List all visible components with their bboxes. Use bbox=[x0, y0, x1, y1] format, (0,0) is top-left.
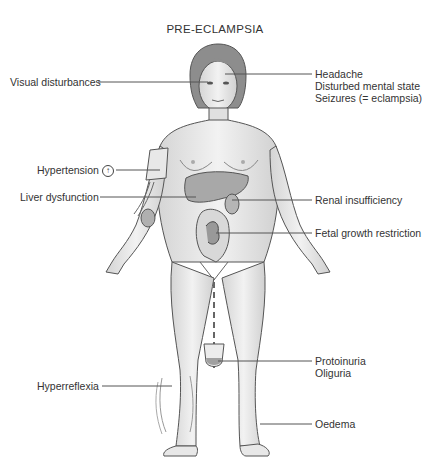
label-proteinuria: Protoinuria bbox=[315, 355, 366, 367]
kidney bbox=[225, 194, 239, 214]
label-oedema: Oedema bbox=[315, 418, 355, 430]
label-text: Oedema bbox=[315, 418, 355, 430]
label-text: Fetal growth restriction bbox=[315, 227, 421, 239]
label-hyperreflexia: Hyperreflexia bbox=[37, 380, 99, 392]
label-fetal-growth-restriction: Fetal growth restriction bbox=[315, 227, 421, 239]
label-headache: Headache bbox=[315, 68, 422, 80]
left-leg bbox=[222, 262, 265, 446]
label-text: Visual disturbances bbox=[10, 76, 101, 88]
up-arrow-circle-icon: ↑ bbox=[102, 165, 114, 177]
face bbox=[199, 61, 237, 111]
label-text: Liver dysfunction bbox=[20, 191, 99, 203]
label-cns-symptoms: Headache Disturbed mental state Seizures… bbox=[315, 68, 422, 104]
label-oliguria: Oliguria bbox=[315, 367, 366, 379]
left-arm bbox=[270, 146, 330, 274]
label-urine-findings: Protoinuria Oliguria bbox=[315, 355, 366, 379]
label-text: Renal insufficiency bbox=[315, 194, 402, 206]
label-text: Hypertension bbox=[37, 164, 99, 176]
swollen-foot bbox=[240, 444, 269, 456]
label-visual-disturbances: Visual disturbances bbox=[10, 76, 101, 88]
bp-cuff bbox=[146, 148, 168, 180]
label-hypertension: Hypertension↑ bbox=[37, 164, 114, 177]
label-renal-insufficiency: Renal insufficiency bbox=[315, 194, 402, 206]
label-liver-dysfunction: Liver dysfunction bbox=[20, 191, 99, 203]
label-disturbed-mental-state: Disturbed mental state bbox=[315, 80, 422, 92]
label-seizures: Seizures (= eclampsia) bbox=[315, 92, 422, 104]
bp-bulb bbox=[141, 209, 155, 227]
label-text: Hyperreflexia bbox=[37, 380, 99, 392]
